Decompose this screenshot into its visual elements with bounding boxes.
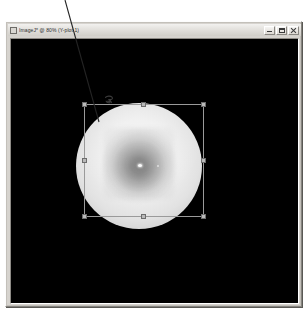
roi-handle-ne[interactable] — [201, 102, 206, 107]
minimize-button[interactable] — [264, 26, 275, 35]
roi-handle-se[interactable] — [201, 214, 206, 219]
roi-handle-n[interactable] — [141, 102, 146, 107]
roi-handle-w[interactable] — [82, 158, 87, 163]
image-canvas-container[interactable] — [10, 38, 299, 304]
window-titlebar[interactable]: ImageJ* @ 80% (Y-plot 1) — [8, 24, 301, 36]
screen-backdrop: ImageJ* @ 80% (Y-plot 1) — [0, 0, 308, 316]
maximize-button[interactable] — [276, 26, 287, 35]
image-canvas[interactable] — [11, 39, 298, 303]
close-button[interactable] — [288, 26, 299, 35]
defect-mark-icon — [104, 95, 115, 104]
roi-handle-nw[interactable] — [82, 102, 87, 107]
roi-selection-rectangle[interactable] — [84, 104, 204, 217]
roi-handle-e[interactable] — [201, 158, 206, 163]
window-title: ImageJ* @ 80% (Y-plot 1) — [19, 27, 79, 34]
imagej-image-window[interactable]: ImageJ* @ 80% (Y-plot 1) — [5, 21, 302, 307]
roi-handle-sw[interactable] — [82, 214, 87, 219]
imagej-icon — [10, 27, 17, 34]
roi-handle-s[interactable] — [141, 214, 146, 219]
window-inner-frame: ImageJ* @ 80% (Y-plot 1) — [6, 22, 301, 306]
window-controls — [264, 26, 299, 35]
